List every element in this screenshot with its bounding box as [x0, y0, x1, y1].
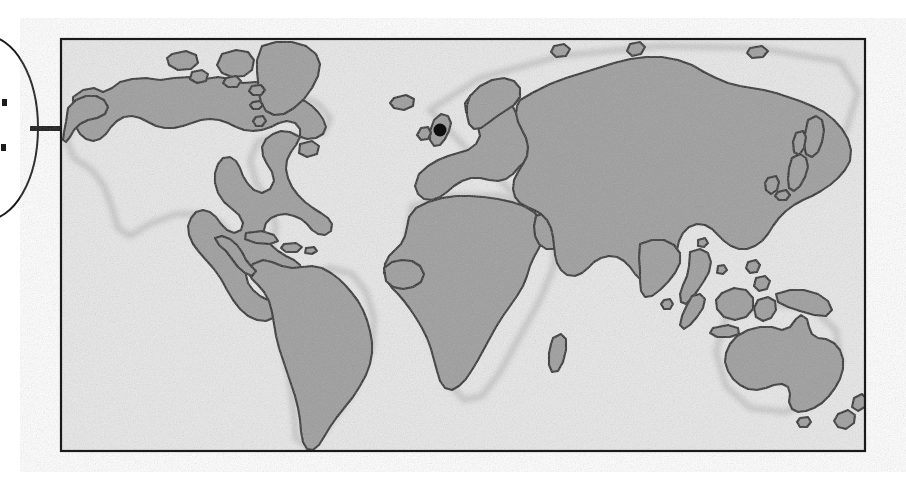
- landmass-arctic-island-small-2: [223, 76, 241, 87]
- location-marker-dot: [434, 124, 447, 137]
- landmass-philippines-2: [754, 276, 770, 291]
- landmass-victoria-island: [167, 51, 198, 70]
- landmass-iceland: [390, 95, 414, 110]
- callout-fragment-mark-2: [1, 144, 6, 151]
- landmass-java: [710, 325, 739, 337]
- landmass-arctic-island-small-3: [249, 85, 265, 95]
- landmass-tasmania: [797, 417, 811, 427]
- landmass-borneo: [716, 288, 753, 320]
- world-map-figure-svg: [0, 0, 906, 484]
- landmass-philippines-1: [746, 260, 760, 273]
- landmass-baffin-island: [217, 50, 254, 77]
- landmass-hispaniola: [281, 243, 302, 252]
- landmass-arctic-island-small-5: [253, 116, 266, 126]
- landmass-island-arctic-east: [747, 46, 768, 58]
- landmass-sri-lanka: [661, 299, 673, 309]
- landmass-island-svalbard: [551, 44, 570, 57]
- figure-root: equirectangular-world great-britain elli…: [0, 0, 906, 484]
- world-map-panel: [61, 39, 867, 451]
- landmass-island-pacific-2: [717, 265, 727, 274]
- callout-fragment-mark-1: [2, 99, 7, 106]
- landmass-arctic-island-small-1: [190, 70, 208, 83]
- landmass-island-pacific-1: [698, 238, 708, 247]
- landmass-korea: [765, 176, 779, 194]
- landmass-japan-south: [775, 190, 790, 200]
- landmass-puerto-rico: [305, 247, 317, 254]
- landmass-arctic-island-small-4: [250, 101, 263, 109]
- landmass-africa-west-bulge: [384, 260, 424, 289]
- landmass-newfoundland: [299, 141, 319, 157]
